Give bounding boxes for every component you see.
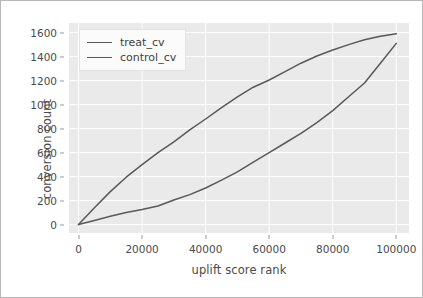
x-tick-label: 20000 xyxy=(125,243,158,255)
x-tick-mark xyxy=(78,235,79,239)
y-tick-label: 600 xyxy=(37,147,57,159)
y-tick-mark xyxy=(60,200,64,201)
x-tick-label: 60000 xyxy=(252,243,285,255)
x-tick-mark xyxy=(205,235,206,239)
x-tick-mark xyxy=(396,235,397,239)
legend-swatch-icon xyxy=(87,57,112,58)
y-tick-label: 0 xyxy=(50,219,57,231)
x-tick-label: 80000 xyxy=(316,243,349,255)
y-tick-label: 400 xyxy=(37,171,57,183)
y-tick-label: 1200 xyxy=(30,75,57,87)
chart-legend[interactable]: treat_cv control_cv xyxy=(79,29,186,71)
y-tick-mark xyxy=(60,224,64,225)
chart-figure: conversion count 02004006008001000120014… xyxy=(0,0,423,298)
y-tick-mark xyxy=(60,56,64,57)
y-axis-ticks: 02004006008001000120014001600 xyxy=(1,23,67,233)
x-tick-label: 0 xyxy=(75,243,82,255)
y-tick-mark xyxy=(60,176,64,177)
x-tick-mark xyxy=(269,235,270,239)
x-tick-mark xyxy=(332,235,333,239)
y-tick-label: 1600 xyxy=(30,27,57,39)
x-axis-ticks: 020000400006000080000100000 xyxy=(69,233,409,263)
y-tick-label: 800 xyxy=(37,123,57,135)
legend-item-treat-cv[interactable]: treat_cv xyxy=(87,35,176,50)
y-tick-mark xyxy=(60,152,64,153)
y-tick-label: 1400 xyxy=(30,51,57,63)
x-axis-label: uplift score rank xyxy=(69,263,409,277)
y-tick-label: 1000 xyxy=(30,99,57,111)
x-tick-label: 100000 xyxy=(376,243,416,255)
x-tick-mark xyxy=(142,235,143,239)
x-tick-label: 40000 xyxy=(189,243,222,255)
legend-label: control_cv xyxy=(120,51,176,64)
legend-label: treat_cv xyxy=(120,36,164,49)
legend-item-control-cv[interactable]: control_cv xyxy=(87,50,176,65)
y-tick-mark xyxy=(60,128,64,129)
y-tick-label: 200 xyxy=(37,195,57,207)
y-tick-mark xyxy=(60,32,64,33)
legend-swatch-icon xyxy=(87,42,112,43)
y-tick-mark xyxy=(60,80,64,81)
y-tick-mark xyxy=(60,104,64,105)
plot-area: treat_cv control_cv xyxy=(69,23,409,233)
